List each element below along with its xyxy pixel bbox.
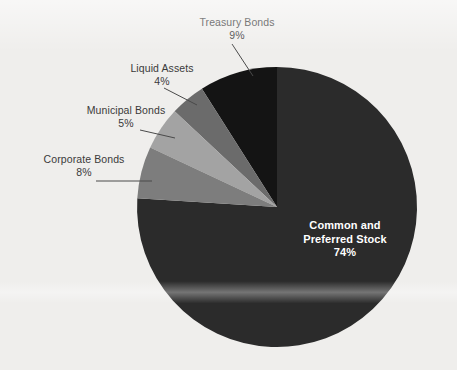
pie-label-liquid-assets-value: 4%: [106, 75, 218, 88]
pie-label-corporate-bonds-value: 8%: [22, 166, 146, 179]
pie-label-municipal-bonds-name: Municipal Bonds: [87, 104, 166, 116]
pie-label-municipal-bonds: Municipal Bonds 5%: [66, 104, 186, 129]
pie-label-liquid-assets-name: Liquid Assets: [130, 62, 193, 74]
pie-label-municipal-bonds-value: 5%: [66, 117, 186, 130]
pie-label-corporate-bonds: Corporate Bonds 8%: [22, 153, 146, 178]
pie-chart-canvas: [0, 0, 457, 370]
pie-label-common-and-preferred-stock-line2: Preferred Stock: [303, 233, 386, 245]
pie-label-treasury-bonds-value: 9%: [181, 29, 293, 42]
pie-label-liquid-assets: Liquid Assets 4%: [106, 62, 218, 87]
leader-line-treasury-bonds: [232, 44, 253, 76]
pie-label-treasury-bonds-name: Treasury Bonds: [199, 16, 274, 28]
pie-label-common-and-preferred-stock: Common and Preferred Stock 74%: [282, 219, 408, 260]
pie-label-corporate-bonds-name: Corporate Bonds: [44, 153, 125, 165]
pie-label-treasury-bonds: Treasury Bonds 9%: [181, 16, 293, 41]
pie-label-common-and-preferred-stock-value: 74%: [282, 246, 408, 260]
pie-label-common-and-preferred-stock-line1: Common and: [309, 219, 380, 231]
pie-chart-figure: Treasury Bonds 9% Liquid Assets 4% Munic…: [0, 0, 457, 370]
